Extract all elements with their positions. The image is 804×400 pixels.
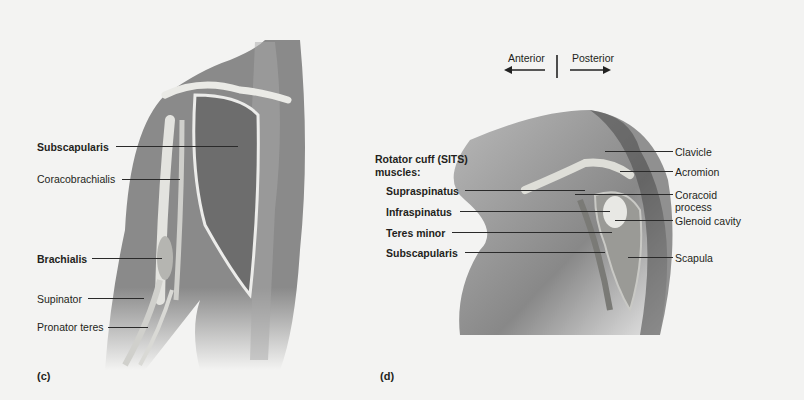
label-subscapularis-c: Subscapularis (37, 141, 109, 153)
label-teres-minor: Teres minor (386, 227, 445, 239)
leader-line (122, 179, 180, 180)
leader-line (460, 211, 610, 212)
panel-label-d: (d) (380, 370, 394, 382)
label-supraspinatus: Supraspinatus (386, 185, 459, 197)
label-pronator-teres: Pronator teres (37, 321, 104, 333)
label-coracobrachialis: Coracobrachialis (37, 173, 115, 185)
leader-line (108, 327, 148, 328)
leader-line (92, 258, 162, 259)
leader-line (452, 232, 612, 233)
label-supinator: Supinator (37, 293, 82, 305)
leader-line (575, 194, 673, 195)
label-subscapularis-d: Subscapularis (386, 247, 458, 259)
arm-figure-c (105, 40, 305, 370)
label-glenoid-cavity: Glenoid cavity (675, 215, 741, 227)
label-clavicle: Clavicle (675, 146, 712, 158)
leader-line (116, 146, 238, 147)
label-infraspinatus: Infraspinatus (386, 206, 452, 218)
label-coracoid: Coracoid (675, 189, 717, 201)
leader-line (465, 252, 605, 253)
shoulder-figure-d (454, 55, 673, 335)
leader-line (465, 190, 585, 191)
label-brachialis: Brachialis (37, 253, 87, 265)
group-title-muscles: muscles: (375, 166, 421, 178)
panel-label-c: (c) (37, 370, 50, 382)
leader-line (615, 220, 673, 221)
label-acromion: Acromion (675, 166, 719, 178)
leader-line (605, 151, 673, 152)
label-process: process (675, 201, 712, 213)
label-scapula: Scapula (675, 252, 713, 264)
leader-line (628, 257, 673, 258)
leader-line (88, 298, 144, 299)
leader-line (620, 171, 673, 172)
label-posterior: Posterior (572, 52, 614, 64)
group-title-rotator-cuff: Rotator cuff (SITS) (375, 153, 468, 165)
label-anterior: Anterior (508, 52, 545, 64)
